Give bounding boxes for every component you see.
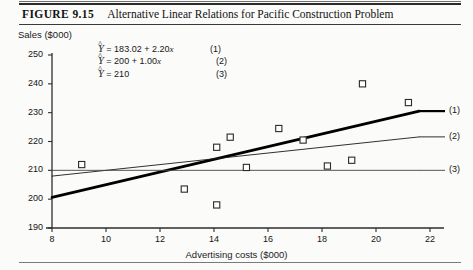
data-point-marker — [405, 99, 411, 105]
x-tick-label: 14 — [202, 234, 226, 244]
axes-layer — [46, 53, 444, 232]
y-tick-label: 210 — [19, 164, 43, 174]
y-tick-label: 200 — [19, 193, 43, 203]
data-point-marker — [243, 164, 249, 170]
data-point-marker — [181, 186, 187, 192]
y-tick-label: 230 — [19, 107, 43, 117]
figure-container: FIGURE 9.15 Alternative Linear Relations… — [0, 0, 473, 270]
x-tick-label: 10 — [94, 234, 118, 244]
regression-line-1 — [52, 111, 419, 197]
data-point-marker — [349, 157, 355, 163]
data-point-marker — [227, 134, 233, 140]
y-tick-label: 240 — [19, 78, 43, 88]
data-point-marker — [214, 202, 220, 208]
x-tick-label: 20 — [364, 234, 388, 244]
data-point-marker — [276, 125, 282, 131]
regression-lines-layer — [52, 111, 445, 197]
x-tick-label: 12 — [148, 234, 172, 244]
data-point-marker — [300, 137, 306, 143]
data-points-layer — [79, 81, 412, 208]
x-tick-label: 8 — [40, 234, 64, 244]
scatter-plot-canvas — [0, 0, 473, 270]
x-tick-label: 16 — [256, 234, 280, 244]
line-end-label-3: (3) — [449, 164, 460, 174]
data-point-marker — [214, 144, 220, 150]
y-tick-label: 190 — [19, 222, 43, 232]
data-point-marker — [324, 163, 330, 169]
data-point-marker — [79, 161, 85, 167]
x-tick-label: 18 — [310, 234, 334, 244]
y-tick-label: 220 — [19, 136, 43, 146]
x-tick-label: 22 — [418, 234, 442, 244]
y-tick-label: 250 — [19, 49, 43, 59]
data-point-marker — [359, 81, 365, 87]
line-end-label-2: (2) — [449, 131, 460, 141]
line-end-label-1: (1) — [449, 105, 460, 115]
